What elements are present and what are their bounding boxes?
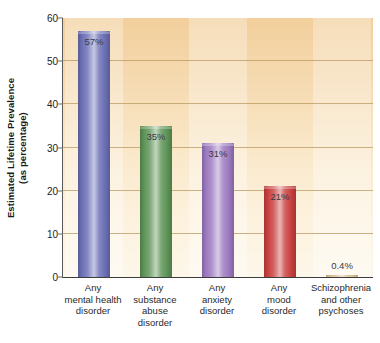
x-axis-category-labels: Anymental healthdisorderAnysubstanceabus…	[62, 282, 372, 342]
bar-top-highlight	[264, 186, 296, 189]
bar-value-label: 57%	[64, 36, 124, 47]
y-axis-tick-mark	[58, 61, 63, 62]
y-axis-tick-label: 60	[24, 13, 58, 24]
bar	[202, 143, 234, 277]
bar-value-label: 21%	[250, 191, 310, 202]
bar-top-highlight	[140, 126, 172, 129]
y-axis-tick-label: 30	[24, 142, 58, 153]
x-axis-category-label: Anymooddisorder	[244, 282, 314, 317]
y-axis-tick-label: 20	[24, 185, 58, 196]
x-axis-category-line: anxiety	[182, 294, 252, 306]
x-axis-category-label: Anyanxietydisorder	[182, 282, 252, 317]
plot-column-band	[313, 18, 371, 277]
x-axis-category-line: and other	[306, 294, 376, 306]
x-axis-category-line: psychoses	[306, 305, 376, 317]
plot-area: 57%35%31%21%0.4%	[62, 18, 373, 278]
bar-value-label: 35%	[126, 131, 186, 142]
x-axis-category-line: mood	[244, 294, 314, 306]
y-axis-tick-mark	[58, 233, 63, 234]
x-axis-category-line: Schizophrenia	[306, 282, 376, 294]
x-axis-category-line: disorder	[182, 305, 252, 317]
bar-value-label: 0.4%	[312, 260, 372, 271]
y-axis-tick-mark	[58, 277, 63, 278]
bar-top-highlight	[202, 143, 234, 146]
x-axis-category-label: Anysubstanceabusedisorder	[120, 282, 190, 328]
bar	[78, 31, 110, 277]
y-axis-tick-mark	[58, 190, 63, 191]
y-axis-tick-label: 40	[24, 99, 58, 110]
bar	[140, 126, 172, 277]
x-axis-category-line: disorder	[120, 317, 190, 329]
x-axis-category-line: Any	[182, 282, 252, 294]
x-axis-category-line: Any	[244, 282, 314, 294]
x-axis-category-line: abuse	[120, 305, 190, 317]
x-axis-category-line: disorder	[244, 305, 314, 317]
bar-value-label: 31%	[188, 148, 248, 159]
y-axis-tick-mark	[58, 18, 63, 19]
chart-figure: Estimated Lifetime Prevalence (as percen…	[0, 0, 380, 343]
y-axis-tick-label: 50	[24, 56, 58, 67]
y-axis-tick-label: 0	[24, 272, 58, 283]
y-axis-title-line1: Estimated Lifetime Prevalence	[5, 77, 16, 217]
x-axis-category-line: Any	[58, 282, 128, 294]
x-axis-category-label: Schizophreniaand otherpsychoses	[306, 282, 376, 317]
y-axis-tick-label: 10	[24, 228, 58, 239]
bar	[326, 275, 358, 277]
x-axis-category-line: disorder	[58, 305, 128, 317]
x-axis-category-line: mental health	[58, 294, 128, 306]
y-axis-tick-mark	[58, 104, 63, 105]
x-axis-category-line: substance	[120, 294, 190, 306]
y-axis-tick-labels: 0102030405060	[22, 0, 58, 343]
bar-top-highlight	[326, 275, 358, 278]
x-axis-category-label: Anymental healthdisorder	[58, 282, 128, 317]
y-axis-tick-mark	[58, 147, 63, 148]
x-axis-category-line: Any	[120, 282, 190, 294]
bar-top-highlight	[78, 31, 110, 34]
